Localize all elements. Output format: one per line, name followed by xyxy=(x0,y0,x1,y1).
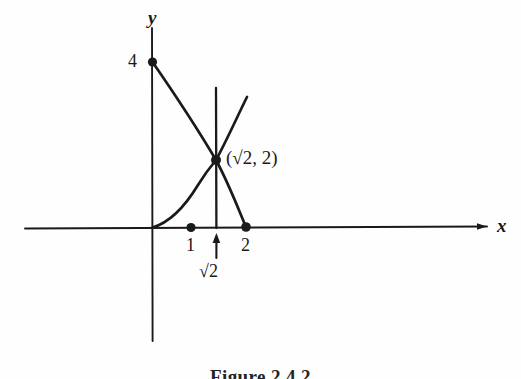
intersection-point-label: (√2, 2) xyxy=(226,148,278,167)
point-intersection xyxy=(211,155,221,165)
tick-label-x-2: 2 xyxy=(241,236,250,254)
coordinate-plane-graphic xyxy=(0,0,521,379)
figure-caption: Figure 2.4.2 xyxy=(0,366,521,379)
descending-curve xyxy=(153,62,247,227)
y-axis xyxy=(152,28,153,341)
tick-label-x-1: 1 xyxy=(186,236,195,254)
figure-container: y x 4 1 2 (√2, 2) √2 Figure 2.4.2 xyxy=(0,0,521,379)
x-axis xyxy=(25,223,487,230)
y-axis-label: y xyxy=(148,8,156,27)
point-x-two xyxy=(241,222,251,232)
tick-label-y-4: 4 xyxy=(128,52,137,70)
point-x-one xyxy=(186,223,195,232)
sqrt2-annotation-label: √2 xyxy=(199,262,218,280)
x-axis-label: x xyxy=(497,216,507,235)
sqrt2-up-arrow xyxy=(213,233,221,258)
point-y-intercept-4 xyxy=(148,57,157,66)
